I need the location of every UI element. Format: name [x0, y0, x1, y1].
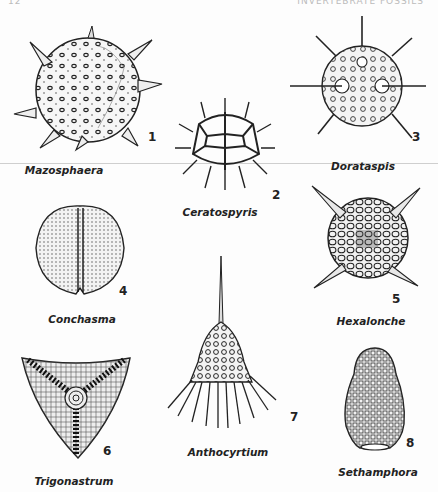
figure-2-number: 2 [272, 188, 280, 202]
figure-1-label: Mazosphaera [25, 164, 104, 176]
sethamphora-illustration-icon [340, 344, 410, 452]
figure-8-sethamphora [340, 344, 410, 452]
mazosphaera-illustration-icon [10, 18, 170, 153]
figure-3-label: Dorataspis [331, 160, 395, 172]
anthocyrtium-illustration-icon [164, 252, 280, 432]
figure-1-mazosphaera [10, 18, 170, 153]
figure-7-number: 7 [290, 410, 298, 424]
figure-2-ceratospyris [175, 98, 275, 190]
figure-3-number: 3 [412, 130, 420, 144]
trigonastrum-illustration-icon [16, 352, 136, 462]
figure-5-number: 5 [392, 292, 400, 306]
figure-4-label: Conchasma [48, 313, 115, 325]
figure-2-label: Ceratospyris [183, 206, 258, 218]
figure-5-label: Hexalonche [337, 315, 406, 327]
hexalonche-illustration-icon [310, 182, 422, 292]
figure-6-label: Trigonastrum [35, 475, 114, 487]
conchasma-illustration-icon [30, 200, 130, 300]
page-number: 12 [8, 0, 21, 6]
running-head: INVERTEBRATE FOSSILS [297, 0, 424, 6]
figure-7-label: Anthocyrtium [188, 446, 269, 458]
dorataspis-illustration-icon [288, 14, 430, 140]
figure-8-label: Sethamphora [338, 466, 418, 478]
book-page: 12 INVERTEBRATE FOSSILS 1 Mazosphaera [0, 0, 438, 492]
figure-6-trigonastrum [16, 352, 136, 462]
figure-6-number: 6 [103, 444, 111, 458]
figure-7-anthocyrtium [164, 252, 280, 432]
ceratospyris-illustration-icon [175, 98, 275, 190]
figure-1-number: 1 [148, 130, 156, 144]
figure-5-hexalonche [310, 182, 422, 292]
figure-8-number: 8 [406, 436, 414, 450]
figure-3-dorataspis [288, 14, 430, 140]
figure-4-number: 4 [119, 284, 127, 298]
figure-4-conchasma [30, 200, 130, 300]
